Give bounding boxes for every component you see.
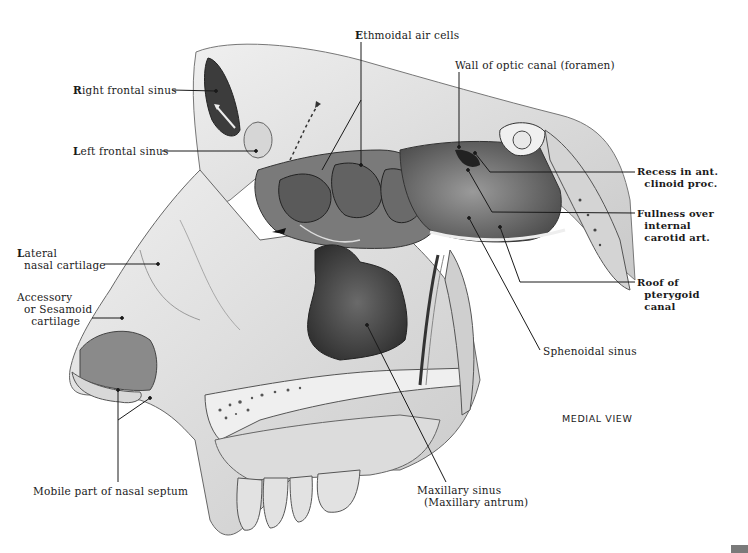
label-recess-anterior-clinoid: Recess in ant. clinoid proc.: [637, 166, 718, 190]
label-medial-view: MEDIAL VIEW: [562, 413, 632, 425]
label-fullness-internal-carotid: Fullness over internal carotid art.: [637, 208, 714, 244]
label-accessory-sesamoid-cartilage: Accessory or Sesamoid cartilage: [17, 291, 92, 327]
label-lateral-nasal-cartilage: Lateral nasal cartilage: [17, 247, 106, 271]
label-mobile-nasal-septum: Mobile part of nasal septum: [33, 485, 188, 497]
corner-tab: [731, 545, 748, 553]
anatomical-illustration: [0, 0, 748, 553]
label-maxillary-sinus: Maxillary sinus (Maxillary antrum): [417, 484, 528, 508]
label-left-frontal-sinus: Left frontal sinus: [73, 145, 168, 157]
label-wall-optic-canal: Wall of optic canal (foramen): [455, 59, 615, 71]
label-roof-pterygoid-canal: Roof of pterygoid canal: [637, 277, 700, 313]
left-frontal-sinus-bulge: [244, 122, 272, 158]
teeth: [237, 470, 360, 530]
label-ethmoidal-air-cells: Ethmoidal air cells: [355, 29, 459, 41]
label-sphenoidal-sinus: Sphenoidal sinus: [543, 345, 637, 357]
label-right-frontal-sinus: Right frontal sinus: [73, 84, 177, 96]
